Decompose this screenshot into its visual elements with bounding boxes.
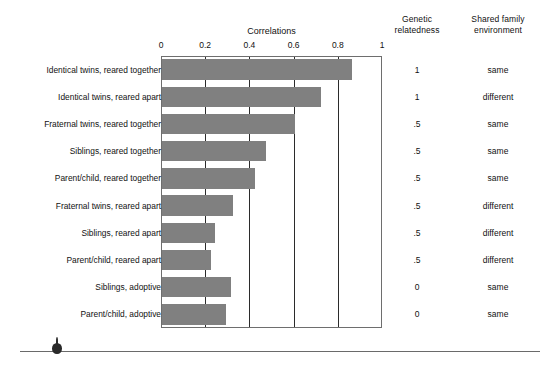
x-tick-label-1: 0.2 <box>199 40 211 50</box>
shared-environment-value: different <box>455 92 541 102</box>
genetic-relatedness-value: 0 <box>386 309 448 319</box>
genetic-header-line-1: Genetic <box>386 14 448 25</box>
shared-environment-value: same <box>455 146 541 156</box>
shared-family-environment-header: Shared family environment <box>455 14 541 36</box>
correlations-figure: Genetic relatedness Shared family enviro… <box>0 0 548 365</box>
shared-environment-value: different <box>455 255 541 265</box>
genetic-relatedness-value: .5 <box>386 173 448 183</box>
chart-row: Siblings, reared apart.5different <box>0 219 548 246</box>
chart-row: Siblings, adoptive0same <box>0 274 548 301</box>
bar <box>162 168 255 188</box>
shared-environment-value: same <box>455 65 541 75</box>
bar-track <box>162 83 381 110</box>
genetic-relatedness-value: .5 <box>386 119 448 129</box>
x-tick-label-0: 0 <box>159 40 164 50</box>
chart-row: Identical twins, reared together1same <box>0 56 548 83</box>
genetic-relatedness-value: .5 <box>386 228 448 238</box>
bar <box>162 195 233 215</box>
chart-rows: Identical twins, reared together1sameIde… <box>0 56 548 328</box>
chart-row: Fraternal twins, reared apart.5different <box>0 192 548 219</box>
shared-environment-value: same <box>455 119 541 129</box>
bar <box>162 277 231 297</box>
leaf-marker-icon <box>52 337 62 354</box>
bar <box>162 250 211 270</box>
bar <box>162 223 215 243</box>
bar <box>162 87 321 107</box>
genetic-header-line-2: relatedness <box>386 25 448 36</box>
bar-track <box>162 110 381 137</box>
row-label: Siblings, adoptive <box>95 282 166 292</box>
row-label: Siblings, reared apart <box>81 228 166 238</box>
bar-track <box>162 301 381 328</box>
chart-row: Parent/child, reared apart.5different <box>0 246 548 273</box>
genetic-relatedness-value: .5 <box>386 146 448 156</box>
row-label: Fraternal twins, reared together <box>44 119 166 129</box>
bar-track <box>162 192 381 219</box>
bar-track <box>162 138 381 165</box>
shared-environment-value: same <box>455 309 541 319</box>
bar-track <box>162 219 381 246</box>
bottom-divider <box>20 351 540 352</box>
bar <box>162 114 295 134</box>
x-tick-label-4: 0.8 <box>332 40 344 50</box>
chart-title: Correlations <box>161 26 382 36</box>
bar-track <box>162 246 381 273</box>
chart-row: Identical twins, reared apart1different <box>0 83 548 110</box>
bar <box>162 141 266 161</box>
row-label: Parent/child, reared apart <box>66 255 166 265</box>
row-label: Parent/child, adoptive <box>80 309 166 319</box>
genetic-relatedness-value: 1 <box>386 65 448 75</box>
bar-track <box>162 274 381 301</box>
x-tick-label-2: 0.4 <box>243 40 255 50</box>
chart-row: Parent/child, adoptive0same <box>0 301 548 328</box>
row-label: Identical twins, reared together <box>46 65 166 75</box>
bar <box>162 59 352 79</box>
shared-environment-value: same <box>455 173 541 183</box>
row-label: Parent/child, reared together <box>55 173 166 183</box>
shared-environment-value: different <box>455 228 541 238</box>
row-label: Fraternal twins, reared apart <box>56 201 166 211</box>
leaf-marker-body <box>52 343 62 354</box>
genetic-relatedness-value: .5 <box>386 201 448 211</box>
shared-header-line-1: Shared family <box>455 14 541 25</box>
x-tick-label-3: 0.6 <box>288 40 300 50</box>
genetic-relatedness-value: 1 <box>386 92 448 102</box>
genetic-relatedness-value: 0 <box>386 282 448 292</box>
genetic-relatedness-header: Genetic relatedness <box>386 14 448 36</box>
bar <box>162 304 226 324</box>
bar-track <box>162 56 381 83</box>
chart-row: Siblings, reared together.5same <box>0 138 548 165</box>
shared-environment-value: same <box>455 282 541 292</box>
x-axis-tick-labels: 00.20.40.60.81 <box>0 40 548 52</box>
row-label: Siblings, reared together <box>70 146 166 156</box>
chart-row: Fraternal twins, reared together.5same <box>0 110 548 137</box>
bar-track <box>162 165 381 192</box>
genetic-relatedness-value: .5 <box>386 255 448 265</box>
shared-environment-value: different <box>455 201 541 211</box>
row-label: Identical twins, reared apart <box>58 92 166 102</box>
chart-row: Parent/child, reared together.5same <box>0 165 548 192</box>
x-tick-label-5: 1 <box>380 40 385 50</box>
shared-header-line-2: environment <box>455 25 541 36</box>
